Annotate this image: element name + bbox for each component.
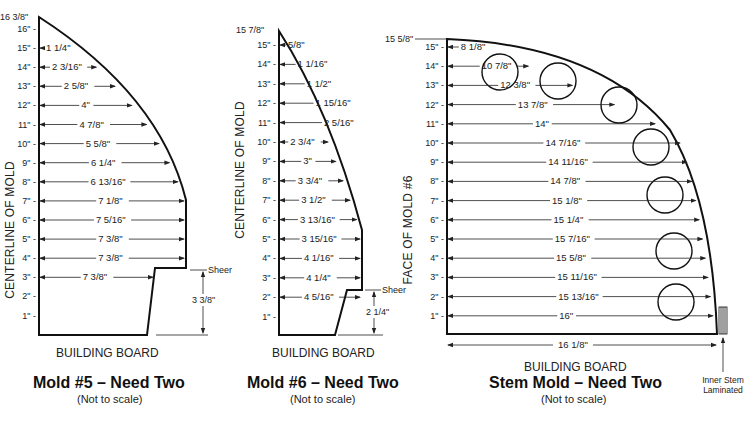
width-label: 14 7/16" [545, 137, 580, 148]
mold-6-sheer-label: Sheer [382, 285, 406, 295]
width-label: 6 1/4" [91, 157, 116, 168]
width-label: 2 3/4" [290, 136, 315, 147]
height-label: 10" - [425, 138, 444, 148]
height-label: 11" - [258, 118, 276, 128]
mold-6-diagram: CENTERLINE OF MOLD 15 7/8" 15" -5/8"14" … [233, 25, 406, 405]
height-label: 16" - [17, 24, 36, 34]
height-label: 8" - [22, 177, 36, 187]
measurement-row: 6" -15 1/4" [430, 214, 699, 225]
width-label: 15 1/4" [553, 214, 583, 225]
mold-6-subtitle: (Not to scale) [290, 393, 355, 405]
height-label: 8" - [262, 176, 276, 186]
width-label: 4 1/16" [304, 252, 334, 263]
height-label: 2" - [430, 292, 444, 302]
width-label: 15 7/16" [555, 233, 590, 244]
width-label: 7 3/8" [83, 271, 108, 282]
width-label: 15 13/16" [558, 291, 598, 302]
width-label: 3 15/16" [302, 233, 337, 244]
mold-5-title: Mold #5 – Need Two [33, 374, 185, 391]
stem-mold-base-width: 16 1/8" [558, 339, 588, 350]
width-label: 13 7/8" [518, 99, 548, 110]
measurement-row: 3" -15 11/16" [430, 271, 708, 282]
measurement-row: 16" - [17, 24, 36, 34]
width-label: 2 5/16" [324, 117, 354, 128]
mold-5-subtitle: (Not to scale) [77, 393, 142, 405]
width-label: 7 1/8" [98, 195, 123, 206]
measurement-row: 3" -4 1/4" [262, 272, 360, 283]
mold-6-axis-label: CENTERLINE OF MOLD [233, 101, 247, 239]
mold-5-sheer-label: Sheer [208, 265, 232, 275]
measurement-row: 3" -7 3/8" [22, 271, 153, 282]
height-label: 13" - [425, 80, 444, 90]
measurement-row: 14" -10 7/8" [425, 60, 528, 71]
measurement-row: 5" -3 15/16" [262, 233, 360, 244]
height-label: 15" - [17, 43, 36, 53]
width-label: 14 7/8" [550, 175, 580, 186]
width-label: 1 1/4" [46, 42, 71, 53]
stem-mold-top-label: 15 5/8" [385, 34, 413, 44]
stem-mold-board-label: BUILDING BOARD [524, 360, 627, 374]
width-label: 5 5/8" [86, 138, 111, 149]
mold-6-title: Mold #6 – Need Two [247, 374, 399, 391]
height-label: 5" - [262, 234, 276, 244]
inner-stem-label-line1: Inner Stem [702, 375, 744, 385]
mold-6-sheer-height: 2 1/4" [366, 307, 389, 317]
inner-stem-label-line2: Laminated [703, 385, 743, 395]
measurement-row: 1" - [262, 312, 276, 322]
measurement-row: 12" -4" [17, 99, 131, 110]
stem-mold-diagram: FACE OF MOLD #6 15 5/8" 15" -8 1/8"14" -… [385, 34, 744, 405]
width-label: 4 7/8" [79, 119, 104, 130]
width-label: 4 5/16" [304, 291, 334, 302]
stem-mold-rows: 15" -8 1/8"14" -10 7/8"13" -12 3/8"12" -… [425, 41, 713, 321]
measurement-row: 8" -6 13/16" [22, 176, 178, 187]
width-label: 10 7/8" [482, 60, 512, 71]
measurement-row: 10" -2 3/4" [257, 136, 328, 147]
width-label: 15 5/8" [556, 252, 586, 263]
measurement-row: 9" -14 11/16" [430, 156, 686, 167]
width-label: 1 15/16" [316, 97, 351, 108]
height-label: 1" - [262, 312, 276, 322]
height-label: 7" - [22, 196, 36, 206]
width-label: 3 1/2" [301, 194, 326, 205]
mold-5-axis-label: CENTERLINE OF MOLD [3, 161, 17, 299]
height-label: 4" - [262, 253, 276, 263]
height-label: 6" - [430, 215, 444, 225]
height-label: 9" - [22, 158, 36, 168]
measurement-row: 6" -7 5/16" [22, 214, 184, 225]
width-label: 7 3/8" [98, 252, 123, 263]
measurement-row: 12" -1 15/16" [257, 97, 350, 108]
mold-5-rows: 16" -15" -1 1/4"14" -2 3/16"13" -2 5/8"1… [17, 24, 184, 321]
width-label: 3 3/4" [298, 175, 323, 186]
height-label: 15" - [425, 42, 444, 52]
width-label: 5/8" [288, 39, 305, 50]
width-label: 1 1/16" [298, 58, 328, 69]
measurement-row: 11" -2 5/16" [258, 117, 354, 128]
width-label: 7 3/8" [98, 233, 123, 244]
height-label: 10" - [17, 139, 36, 149]
height-label: 6" - [22, 215, 36, 225]
width-label: 15 1/8" [552, 195, 582, 206]
height-label: 3" - [262, 273, 276, 283]
height-label: 14" - [17, 62, 36, 72]
mold-5-board-label: BUILDING BOARD [56, 346, 159, 360]
measurement-row: 15" -5/8" [257, 39, 304, 50]
measurement-row: 15" -1 1/4" [17, 42, 70, 53]
height-label: 1" - [430, 311, 444, 321]
measurement-row: 6" -3 13/16" [262, 214, 356, 225]
height-label: 3" - [430, 272, 444, 282]
width-label: 2 3/16" [52, 61, 82, 72]
height-label: 9" - [430, 157, 444, 167]
mold-diagrams: CENTERLINE OF MOLD 16 3/8" 16" -15" -1 1… [0, 0, 756, 424]
width-label: 3 13/16" [300, 214, 335, 225]
height-label: 5" - [430, 234, 444, 244]
width-label: 1 1/2" [307, 78, 332, 89]
measurement-row: 13" -1 1/2" [257, 78, 331, 89]
height-label: 6" - [262, 215, 276, 225]
mold-5-top-label: 16 3/8" [0, 12, 28, 22]
stem-mold-title: Stem Mold – Need Two [489, 374, 662, 391]
measurement-row: 4" -7 3/8" [22, 252, 184, 263]
width-label: 14 11/16" [548, 156, 588, 167]
measurement-row: 10" -14 7/16" [425, 137, 680, 148]
measurement-row: 11" -4 7/8" [18, 119, 146, 130]
height-label: 9" - [262, 156, 276, 166]
